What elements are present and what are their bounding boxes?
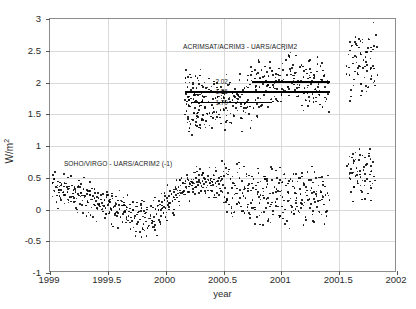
data-point (355, 152, 357, 154)
data-point (91, 207, 93, 209)
data-point (242, 192, 244, 194)
data-point (54, 190, 56, 192)
data-point (154, 197, 156, 199)
data-point (358, 159, 360, 161)
data-point (289, 228, 291, 230)
data-point (282, 69, 284, 71)
data-point (168, 202, 170, 204)
data-point (175, 194, 177, 196)
data-point (317, 86, 319, 88)
data-point (109, 201, 111, 203)
mean-reference-line (185, 91, 330, 92)
data-point (325, 194, 327, 196)
data-point (218, 183, 220, 185)
data-point (186, 174, 188, 176)
data-point (70, 176, 72, 178)
data-point (204, 107, 206, 109)
data-point (59, 182, 61, 184)
data-point (214, 175, 216, 177)
data-point (272, 101, 274, 103)
data-point (256, 216, 258, 218)
data-point (116, 215, 118, 217)
data-point (192, 87, 194, 89)
data-point (310, 190, 312, 192)
data-point (224, 163, 226, 165)
data-point (259, 202, 261, 204)
y-axis-tick (46, 241, 50, 242)
data-point (301, 199, 303, 201)
data-point (309, 59, 311, 61)
data-point (348, 67, 350, 69)
data-point (213, 107, 215, 109)
data-point (249, 214, 251, 216)
data-point (306, 195, 308, 197)
data-point (370, 185, 372, 187)
data-point (313, 77, 315, 79)
data-point (296, 206, 298, 208)
data-point (356, 62, 358, 64)
data-point (215, 167, 217, 169)
y-axis-tick (46, 83, 50, 84)
data-point (132, 201, 134, 203)
data-point (176, 179, 178, 181)
data-point (187, 96, 189, 98)
data-point (104, 217, 106, 219)
data-point (267, 183, 269, 185)
data-point (221, 160, 223, 162)
y-axis-title-exponent: 2 (3, 139, 10, 143)
data-point (266, 85, 268, 87)
data-point (233, 183, 235, 185)
data-point (52, 174, 54, 176)
data-point (269, 206, 271, 208)
data-point (227, 110, 229, 112)
data-point (247, 185, 249, 187)
data-point (349, 172, 351, 174)
data-point (223, 109, 225, 111)
data-point (299, 188, 301, 190)
data-point (208, 197, 210, 199)
data-point (135, 231, 137, 233)
data-point (122, 213, 124, 215)
data-point (214, 194, 216, 196)
grid-line-vertical (339, 19, 340, 271)
data-point (244, 212, 246, 214)
data-point (370, 158, 372, 160)
data-point (212, 184, 214, 186)
data-point (192, 82, 194, 84)
data-point (99, 206, 101, 208)
data-point (199, 75, 201, 77)
data-point (282, 63, 284, 65)
data-point (362, 180, 364, 182)
data-point (259, 86, 261, 88)
data-point (277, 101, 279, 103)
data-point (200, 105, 202, 107)
data-point (328, 195, 330, 197)
data-point (239, 197, 241, 199)
data-point (234, 96, 236, 98)
data-point (284, 223, 286, 225)
data-point (285, 59, 287, 61)
data-point (363, 169, 365, 171)
data-point (94, 197, 96, 199)
data-point (207, 113, 209, 115)
y-axis-tick-label: -0.5 (25, 235, 41, 246)
data-point (370, 187, 372, 189)
data-point (112, 198, 114, 200)
data-point (361, 199, 363, 201)
data-point (178, 186, 180, 188)
mean-value-label: 2.02 (215, 78, 227, 85)
data-point (239, 168, 241, 170)
data-point (237, 172, 239, 174)
data-point (316, 206, 318, 208)
data-point (290, 52, 292, 54)
data-point (361, 90, 363, 92)
data-point (92, 216, 94, 218)
data-point (175, 186, 177, 188)
data-point (124, 211, 126, 213)
data-point (64, 203, 66, 205)
data-point (144, 217, 146, 219)
data-point (260, 105, 262, 107)
data-point (247, 106, 249, 108)
data-point (300, 207, 302, 209)
data-point (350, 191, 352, 193)
